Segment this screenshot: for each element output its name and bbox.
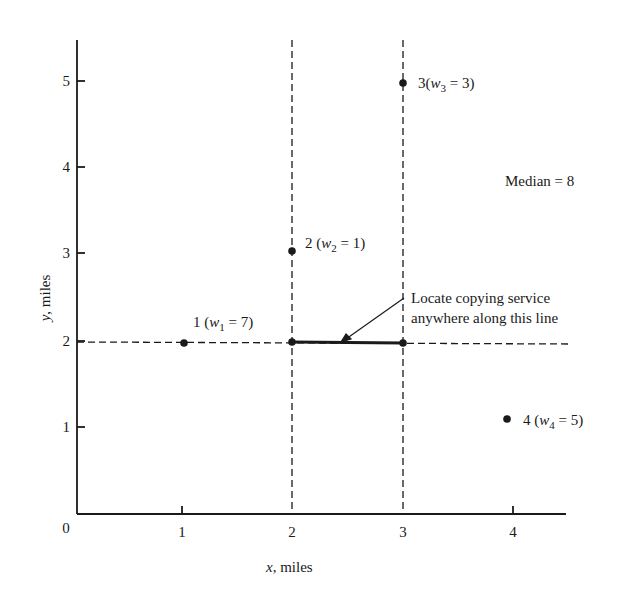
x-tick-label-3: 3 <box>399 524 407 540</box>
y-axis-title: y, miles <box>37 275 53 324</box>
optimal-segment <box>292 342 403 343</box>
point-label-2: 2 (w2 = 1) <box>305 235 365 254</box>
point-label-4: 4 (w4 = 5) <box>523 412 583 431</box>
x-axis-title: x, miles <box>265 559 313 575</box>
data-points <box>180 79 511 423</box>
y-tick-labels: 1 2 3 4 5 <box>63 73 71 435</box>
y-tick-label-1: 1 <box>63 419 71 435</box>
y-tick-label-5: 5 <box>63 73 71 89</box>
median-corner-2-2 <box>288 338 296 346</box>
figure: 1 2 3 4 5 0 1 2 3 4 x, miles y, miles 1 … <box>0 0 631 591</box>
annotation-arrow <box>341 298 404 342</box>
median-lines <box>77 40 572 514</box>
y-tick-label-2: 2 <box>63 333 71 349</box>
median-annotation: Median = 8 <box>505 173 574 189</box>
x-tick-label-2: 2 <box>288 524 296 540</box>
x-tick-label-4: 4 <box>509 524 517 540</box>
origin-label: 0 <box>62 520 70 536</box>
point-label-1: 1 (w1 = 7) <box>193 314 253 333</box>
median-corner-3-2 <box>399 339 407 347</box>
y-tick-label-3: 3 <box>63 245 71 261</box>
y-tick-label-4: 4 <box>63 159 71 175</box>
point-label-3: 3(w3 = 3) <box>418 75 474 94</box>
locate-annotation-line2: anywhere along this line <box>411 310 558 326</box>
x-tick-labels: 0 1 2 3 4 <box>62 520 517 540</box>
point-1 <box>180 339 188 347</box>
x-tick-label-1: 1 <box>178 524 186 540</box>
axes <box>77 40 566 514</box>
point-2 <box>288 247 296 255</box>
point-4 <box>503 415 511 423</box>
locate-annotation-line1: Locate copying service <box>411 290 550 306</box>
point-3 <box>399 79 407 87</box>
